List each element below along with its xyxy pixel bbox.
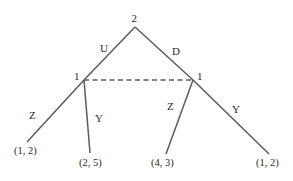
edge-d [135,27,193,80]
edge-right-z [166,80,193,154]
payoff-right-y: (1, 2) [256,157,279,169]
payoff-right-z: (4, 3) [151,157,174,169]
right-player-label: 1 [197,70,203,82]
edge-label-u: U [100,42,108,54]
edge-label-left-y: Y [95,112,103,124]
edge-u [84,27,135,80]
payoff-left-z: (1, 2) [14,145,37,157]
edge-right-y [193,80,269,154]
edge-label-left-z: Z [29,109,36,121]
edge-label-d: D [172,45,180,57]
root-player-label: 2 [132,12,138,24]
left-player-label: 1 [74,70,80,82]
game-tree-diagram: 2 1 1 U D Z Y Z Y (1, 2) (2, 5) (4, 3) (… [0,0,293,181]
edge-label-right-z: Z [167,100,174,112]
edge-label-right-y: Y [232,103,240,115]
payoff-left-y: (2, 5) [79,157,102,169]
edge-left-y [84,80,90,153]
